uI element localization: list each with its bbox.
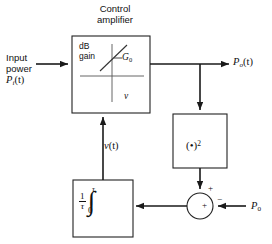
amplifier-y-axis-label: dB gain: [79, 42, 95, 61]
title-line-2: amplifier: [78, 15, 152, 26]
squarer-label: (•)2: [186, 139, 201, 151]
g0-base: G: [122, 52, 129, 62]
summer-top-sign: +: [208, 183, 213, 193]
integral-lower-limit: 0: [88, 206, 93, 215]
integrator-fraction: 1 τ: [79, 192, 86, 211]
gain-curve-annotation: G0: [122, 52, 132, 63]
integral-limits: τ 0: [96, 193, 101, 210]
g0-subscript: 0: [129, 56, 132, 63]
amplifier-x-axis-label: v: [124, 91, 128, 102]
control-symbol-arg: (t): [109, 140, 119, 151]
summer-right-sign: −: [217, 194, 222, 204]
output-power-label: Po(t): [233, 56, 253, 69]
output-symbol-arg: (t): [243, 56, 253, 67]
db-label-line-2: gain: [79, 52, 95, 62]
reference-symbol-subscript: 0: [257, 205, 261, 213]
reference-power-label: P0: [251, 200, 261, 213]
squarer-exponent: 2: [197, 139, 201, 148]
diagram-title: Control amplifier: [78, 4, 152, 25]
integral-upper-limit: τ: [92, 186, 97, 194]
control-voltage-label: v(t): [104, 140, 119, 152]
agc-block-diagram: Control amplifier Input power Pi(t) dB g…: [0, 0, 272, 244]
diagram-canvas: [0, 0, 272, 244]
integrator-fraction-denominator: τ: [79, 202, 86, 211]
input-label-line-2: power: [6, 64, 32, 75]
integrator-label: 1 τ ∫ τ 0: [79, 191, 100, 213]
input-symbol-arg: (t): [14, 74, 24, 85]
input-power-label: Input power Pi(t): [6, 53, 32, 87]
summing-junction: [187, 193, 213, 219]
input-symbol: Pi(t): [6, 74, 32, 87]
summer-center-sign: +: [202, 200, 207, 210]
